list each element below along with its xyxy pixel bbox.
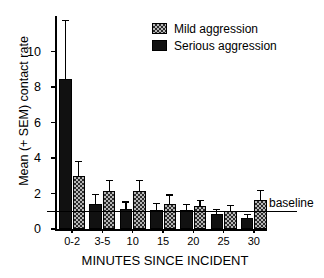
error-bar-cap — [136, 180, 143, 181]
bar-mild-20 — [194, 206, 207, 229]
x-tick-label: 30 — [248, 235, 260, 247]
error-bar-cap — [257, 190, 264, 191]
baseline-label: baseline — [269, 196, 314, 210]
x-tick-mark — [132, 229, 133, 233]
legend-swatch-serious-icon — [152, 40, 167, 51]
legend-item-serious: Serious aggression — [152, 38, 277, 53]
bar-serious-30 — [241, 218, 254, 229]
y-tick-mark — [51, 193, 55, 194]
chart-figure: Mean (+ SEM) contact rate 0246810 0-23-5… — [0, 0, 324, 278]
x-tick-mark — [253, 229, 254, 233]
x-tick-label: 15 — [157, 235, 169, 247]
bar-serious-0-2 — [59, 79, 72, 229]
y-tick-label: 6 — [34, 116, 41, 129]
error-bar-stem — [260, 190, 261, 200]
error-bar-cap — [122, 201, 129, 202]
y-tick-mark — [51, 157, 55, 158]
error-bar-stem — [139, 180, 140, 191]
error-bar-cap — [227, 205, 234, 206]
error-bar-stem — [95, 194, 96, 205]
legend-swatch-mild-icon — [152, 23, 167, 34]
chart-legend: Mild aggressionSerious aggression — [152, 21, 277, 55]
x-tick-label: 3-5 — [94, 235, 110, 247]
x-tick-mark — [71, 229, 72, 233]
bar-serious-15 — [150, 210, 163, 229]
x-tick-mark — [102, 229, 103, 233]
y-tick-label: 2 — [34, 187, 41, 200]
baseline-rule — [47, 211, 297, 212]
y-axis-line — [55, 16, 57, 229]
x-axis-line — [55, 229, 267, 231]
bar-serious-20 — [180, 210, 193, 229]
y-tick-mark — [51, 228, 55, 229]
bar-serious-25 — [211, 214, 224, 229]
y-tick-label: 8 — [34, 81, 41, 94]
x-tick-label: 25 — [217, 235, 229, 247]
bar-mild-10 — [133, 191, 146, 229]
x-tick-mark — [223, 229, 224, 233]
error-bar-cap — [244, 214, 251, 215]
legend-item-mild: Mild aggression — [152, 21, 277, 36]
y-axis-title: Mean (+ SEM) contact rate — [17, 11, 31, 211]
bar-mild-0-2 — [73, 176, 86, 229]
error-bar-cap — [106, 180, 113, 181]
x-tick-label: 10 — [127, 235, 139, 247]
legend-label: Mild aggression — [174, 23, 258, 35]
y-tick-label: 10 — [27, 45, 41, 58]
error-bar-cap — [197, 200, 204, 201]
x-tick-mark — [162, 229, 163, 233]
y-tick-label: 4 — [34, 152, 41, 165]
error-bar-cap — [75, 161, 82, 162]
error-bar-cap — [62, 20, 69, 21]
error-bar-stem — [169, 194, 170, 204]
error-bar-stem — [125, 201, 126, 209]
error-bar-stem — [109, 180, 110, 191]
y-tick-mark — [51, 86, 55, 87]
y-tick-label: 0 — [34, 223, 41, 236]
legend-label: Serious aggression — [174, 40, 277, 52]
error-bar-cap — [153, 203, 160, 204]
error-bar-cap — [92, 194, 99, 195]
bar-mild-15 — [164, 204, 177, 229]
bar-mild-30 — [254, 200, 267, 229]
error-bar-cap — [166, 194, 173, 195]
x-axis-title: MINUTES SINCE INCIDENT — [40, 253, 290, 268]
bar-serious-3-5 — [89, 204, 102, 229]
bar-mild-3-5 — [103, 191, 116, 229]
error-bar-cap — [213, 209, 220, 210]
bar-mild-25 — [224, 211, 237, 229]
error-bar-cap — [183, 204, 190, 205]
x-tick-label: 20 — [187, 235, 199, 247]
error-bar-stem — [78, 161, 79, 176]
y-tick-mark — [51, 51, 55, 52]
y-tick-mark — [51, 122, 55, 123]
x-tick-label: 0-2 — [64, 235, 80, 247]
error-bar-stem — [65, 20, 66, 79]
x-tick-mark — [193, 229, 194, 233]
